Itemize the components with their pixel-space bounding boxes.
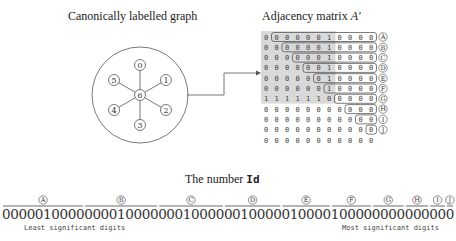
- matrix-cell: 0: [369, 85, 373, 93]
- matrix-cell: 0: [274, 85, 278, 93]
- group-label: A: [40, 196, 46, 204]
- matrix-cell: 0: [264, 34, 268, 42]
- matrix-cell: 0: [358, 34, 362, 42]
- matrix-cell: 0: [316, 64, 320, 72]
- matrix-cell: 0: [337, 44, 341, 52]
- matrix-cell: 0: [369, 116, 373, 124]
- matrix-cell: 0: [316, 54, 320, 62]
- matrix-cell: 0: [306, 54, 310, 62]
- group-label: I: [436, 196, 439, 204]
- matrix-cell: 0: [358, 85, 362, 93]
- matrix-cell: 0: [274, 64, 278, 72]
- row-label: D: [380, 64, 385, 72]
- row-label: B: [381, 44, 386, 52]
- group-label: G: [386, 196, 391, 204]
- matrix-cell: 0: [348, 75, 352, 83]
- matrix-cell: 0: [285, 54, 289, 62]
- matrix-cell: 0: [264, 54, 268, 62]
- matrix-cell: 0: [369, 54, 373, 62]
- matrix-cell: 0: [327, 126, 331, 134]
- matrix-cell: 0: [285, 106, 289, 114]
- matrix-cell: 0: [337, 34, 341, 42]
- svg-text:1: 1: [163, 76, 168, 85]
- matrix-cell: 1: [316, 95, 320, 103]
- svg-text:6: 6: [137, 91, 142, 100]
- matrix-cell: 0: [358, 44, 362, 52]
- matrix-cell: 0: [274, 44, 278, 52]
- matrix-cell: 0: [358, 64, 362, 72]
- matrix-cell: 0: [316, 85, 320, 93]
- matrix-cell: 0: [316, 116, 320, 124]
- matrix-cell: 0: [285, 116, 289, 124]
- svg-text:4: 4: [111, 106, 116, 115]
- matrix-cell: 0: [295, 54, 299, 62]
- canonical-graph: 0123456: [92, 47, 188, 143]
- matrix-cell: 0: [295, 75, 299, 83]
- matrix-cell: 0: [274, 75, 278, 83]
- matrix-cell: 0: [337, 116, 341, 124]
- matrix-cell: 0: [358, 137, 362, 145]
- row-label: E: [381, 75, 386, 83]
- matrix-cell: 0: [348, 137, 352, 145]
- graph-to-matrix-arrow: [187, 71, 261, 96]
- matrix-cell: 0: [316, 44, 320, 52]
- matrix-cell: 0: [285, 34, 289, 42]
- graph-node: 6: [135, 90, 146, 101]
- matrix-cell: 0: [306, 64, 310, 72]
- group-label: B: [119, 196, 124, 204]
- matrix-cell: 0: [358, 54, 362, 62]
- matrix-cell: 0: [274, 137, 278, 145]
- group-label: D: [250, 196, 255, 204]
- matrix-cell: 0: [358, 75, 362, 83]
- matrix-cell: 0: [264, 85, 268, 93]
- matrix-cell: 0: [264, 106, 268, 114]
- matrix-cell: 0: [348, 106, 352, 114]
- matrix-cell: 0: [316, 106, 320, 114]
- group-label: H: [414, 196, 420, 204]
- matrix-cell: 0: [264, 137, 268, 145]
- matrix-cell: 0: [306, 137, 310, 145]
- matrix-cell: 0: [306, 116, 310, 124]
- matrix-cell: 0: [285, 64, 289, 72]
- matrix-cell: 1: [327, 44, 331, 52]
- matrix-cell: 0: [348, 54, 352, 62]
- graph-node: 5: [109, 75, 120, 86]
- svg-text:5: 5: [111, 76, 116, 85]
- matrix-cell: 0: [369, 64, 373, 72]
- matrix-cell: 0: [337, 137, 341, 145]
- matrix-cell: 0: [337, 95, 341, 103]
- matrix-cell: 0: [285, 44, 289, 52]
- matrix-cell: 0: [348, 44, 352, 52]
- matrix-cell: 0: [316, 34, 320, 42]
- matrix-cell: 0: [306, 75, 310, 83]
- group-label: C: [189, 196, 194, 204]
- adjacency-matrix: 00000010000A00000010000B00000010000C0000…: [261, 31, 387, 145]
- least-significant-label: Least significant digits: [24, 224, 125, 232]
- matrix-cell: 0: [306, 34, 310, 42]
- row-label: A: [380, 33, 386, 41]
- matrix-cell: 0: [306, 126, 310, 134]
- matrix-cell: 0: [369, 106, 373, 114]
- matrix-cell: 0: [369, 137, 373, 145]
- matrix-cell: 0: [348, 95, 352, 103]
- graph-node: 1: [160, 75, 171, 86]
- matrix-cell: 0: [274, 106, 278, 114]
- row-label: J: [381, 126, 385, 134]
- matrix-cell: 1: [327, 34, 331, 42]
- matrix-cell: 0: [295, 64, 299, 72]
- matrix-cell: 0: [295, 116, 299, 124]
- matrix-cell: 1: [295, 95, 299, 103]
- svg-text:0: 0: [137, 61, 142, 70]
- row-label: C: [381, 54, 386, 62]
- row-label: I: [382, 116, 385, 124]
- matrix-cell: 0: [306, 106, 310, 114]
- row-label: G: [380, 95, 385, 103]
- matrix-cell: 0: [316, 126, 320, 134]
- matrix-cell: 0: [295, 137, 299, 145]
- graph-node: 2: [160, 105, 171, 116]
- matrix-cell: 0: [264, 126, 268, 134]
- row-label: H: [380, 105, 386, 113]
- matrix-cell: 0: [358, 95, 362, 103]
- matrix-cell: 0: [274, 54, 278, 62]
- group-label: E: [304, 196, 309, 204]
